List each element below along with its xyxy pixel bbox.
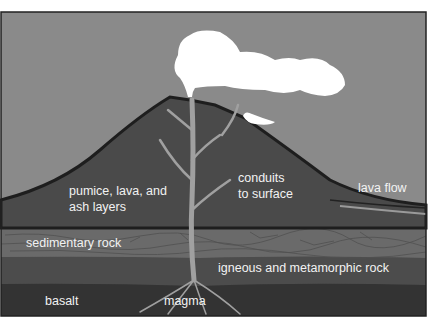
label-magma: magma xyxy=(164,294,206,308)
label-conduits-line1: conduits xyxy=(238,171,285,185)
label-pumice-lava-ash-line2: ash layers xyxy=(69,200,126,214)
label-sedimentary-rock: sedimentary rock xyxy=(26,236,122,250)
volcano-diagram: pumice, lava, and ash layers conduits to… xyxy=(0,0,439,327)
label-conduits-line2: to surface xyxy=(238,187,293,201)
label-basalt: basalt xyxy=(45,294,79,308)
label-igneous-metamorphic-rock: igneous and metamorphic rock xyxy=(218,261,390,275)
label-pumice-lava-ash-line1: pumice, lava, and xyxy=(69,184,167,198)
label-lava-flow: lava flow xyxy=(358,181,408,195)
